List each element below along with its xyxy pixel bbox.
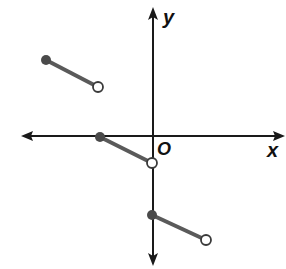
segments (41, 55, 211, 245)
segment-line (46, 60, 98, 87)
open-endpoint-icon (201, 235, 211, 245)
x-axis-label: x (266, 139, 279, 161)
segment-line (100, 137, 152, 163)
origin-label: O (157, 139, 171, 159)
open-endpoint-icon (147, 158, 157, 168)
segment-2 (95, 132, 157, 168)
y-axis-label: y (162, 6, 175, 28)
segment-line (152, 215, 206, 240)
closed-endpoint-icon (41, 55, 51, 65)
function-graph: y x O (0, 0, 286, 269)
segment-3 (147, 210, 211, 245)
closed-endpoint-icon (95, 132, 105, 142)
closed-endpoint-icon (147, 210, 157, 220)
graph-canvas: y x O (0, 0, 286, 269)
segment-1 (41, 55, 103, 92)
open-endpoint-icon (93, 82, 103, 92)
